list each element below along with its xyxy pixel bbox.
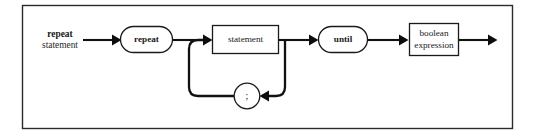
node-until-keyword-label: until <box>334 34 353 44</box>
arrowhead-into-boolean <box>399 35 409 46</box>
arrowhead-into-statement <box>203 35 213 46</box>
node-boolean-expression-label-line2: expression <box>414 40 454 50</box>
arrowhead-exit <box>488 35 498 46</box>
node-boolean-expression-label-line1: boolean <box>419 28 448 38</box>
node-statement-label: statement <box>228 34 264 44</box>
node-boolean-expression[interactable]: boolean expression <box>410 24 459 56</box>
arrowhead-into-until <box>309 35 319 46</box>
arrowhead-into-semicolon <box>260 91 270 102</box>
node-semicolon[interactable]: ; <box>234 83 260 109</box>
diagram-caption-line2: statement <box>42 40 78 50</box>
diagram-caption-line1: repeat <box>47 29 73 39</box>
railroad-diagram-svg: repeat statement ; until boolean express… <box>0 0 538 139</box>
node-semicolon-label: ; <box>246 90 249 101</box>
node-statement[interactable]: statement <box>213 26 279 54</box>
node-repeat-keyword-label: repeat <box>134 34 160 44</box>
node-until-keyword[interactable]: until <box>319 27 368 53</box>
railroad-diagram-root: repeat statement ; until boolean express… <box>0 0 538 139</box>
node-repeat-keyword[interactable]: repeat <box>121 27 173 53</box>
